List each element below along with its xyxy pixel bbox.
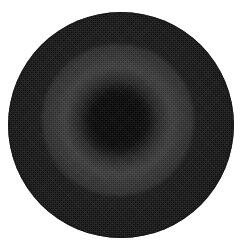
image-canvas: [0, 0, 246, 252]
dither-noise-texture-secondary: [8, 12, 234, 238]
disk: [8, 12, 234, 238]
